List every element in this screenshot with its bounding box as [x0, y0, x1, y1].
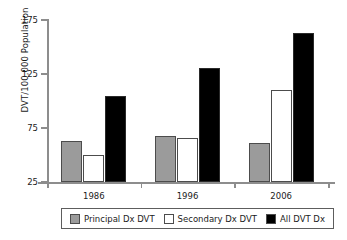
- bar-2006-principal: [249, 143, 270, 182]
- legend-label: Secondary Dx DVT: [178, 214, 257, 224]
- legend-label: Principal Dx DVT: [84, 214, 155, 224]
- bar-1996-principal: [155, 136, 176, 182]
- x-axis-tick: [141, 183, 143, 188]
- x-axis-label-1996: 1996: [158, 191, 218, 201]
- x-axis-line: [38, 182, 335, 184]
- legend-swatch-icon: [266, 214, 276, 224]
- x-axis-tick: [328, 183, 330, 188]
- x-axis-tick: [47, 183, 49, 188]
- legend-swatch-icon: [70, 214, 80, 224]
- plot-area: [47, 20, 328, 182]
- legend-swatch-icon: [164, 214, 174, 224]
- chart-legend: Principal Dx DVTSecondary Dx DVTAll DVT …: [61, 208, 334, 229]
- legend-item-1: Secondary Dx DVT: [164, 214, 257, 224]
- bar-1986-secondary: [83, 155, 104, 182]
- bar-1996-all: [199, 68, 220, 182]
- bar-1986-principal: [61, 141, 82, 182]
- y-axis-tick-label: 175: [0, 15, 38, 25]
- y-axis-tick-label: 125: [0, 69, 38, 79]
- legend-item-2: All DVT Dx: [266, 214, 325, 224]
- x-axis-tick: [234, 183, 236, 188]
- x-axis-label-1986: 1986: [64, 191, 124, 201]
- bar-2006-all: [293, 33, 314, 182]
- bar-1986-all: [105, 96, 126, 182]
- bar-1996-secondary: [177, 138, 198, 182]
- bar-2006-secondary: [271, 90, 292, 182]
- x-axis-label-2006: 2006: [251, 191, 311, 201]
- y-axis-tick-label: 25: [0, 177, 38, 187]
- legend-item-0: Principal Dx DVT: [70, 214, 155, 224]
- legend-label: All DVT Dx: [280, 214, 325, 224]
- y-axis-tick-label: 75: [0, 123, 38, 133]
- dvt-incidence-bar-chart: DVT/100,000 Population 2575125175 198619…: [0, 0, 347, 240]
